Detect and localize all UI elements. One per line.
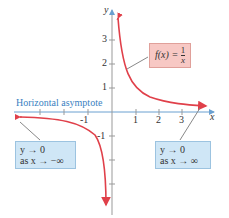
x-axis-label: x [210, 111, 214, 122]
graph-canvas [0, 0, 229, 218]
x-tick-2: 2 [156, 114, 161, 125]
x-tick-neg1: -1 [80, 114, 88, 125]
y-axis-label: y [104, 4, 108, 15]
y-tick-1: 1 [102, 81, 107, 92]
left-limit-note: y → 0 as x → −∞ [15, 141, 76, 169]
right-limit-note: y → 0 as x → ∞ [155, 141, 211, 169]
x-tick-1: 1 [133, 114, 138, 125]
y-tick-neg1: -1 [97, 130, 105, 141]
asymptote-label: Horizontal asymptote [16, 97, 102, 108]
y-tick-3: 3 [102, 33, 107, 44]
y-tick-2: 2 [102, 57, 107, 68]
function-label: f(x) = 1x [149, 43, 191, 68]
x-tick-3: 3 [179, 114, 184, 125]
